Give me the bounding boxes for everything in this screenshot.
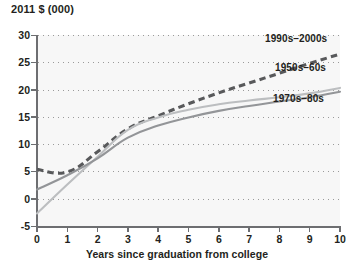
series-line-2 [37, 88, 340, 214]
series-label-3: 1970s–80s [273, 93, 324, 104]
chart-container: 2011 $ (000) -5051015202530 012345678910… [0, 0, 354, 269]
series-label-2: 1950s–60s [275, 62, 326, 73]
series-line-3 [37, 92, 340, 190]
series-label-1: 1990s–2000s [265, 33, 327, 44]
x-axis-title: Years since graduation from college [0, 248, 354, 260]
